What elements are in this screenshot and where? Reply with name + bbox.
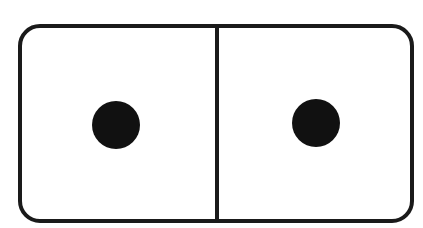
left-half-pip xyxy=(92,101,140,149)
tile-divider xyxy=(215,24,219,223)
right-half-pip xyxy=(292,99,340,147)
